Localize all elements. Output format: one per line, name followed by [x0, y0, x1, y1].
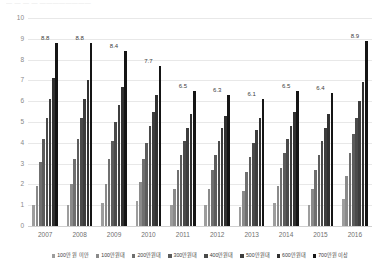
y-axis-tick-label: 0	[20, 223, 24, 230]
bar	[152, 112, 155, 226]
bar-value-label: 8.4	[110, 43, 118, 49]
legend-item-label: 200만원대	[137, 253, 161, 258]
bar	[136, 201, 139, 226]
legend-swatch-icon	[52, 254, 56, 258]
bar	[124, 51, 127, 226]
bar	[290, 126, 293, 226]
bar	[245, 172, 248, 226]
bar	[355, 118, 358, 226]
x-axis-tick-label: 2010	[131, 228, 165, 242]
bar	[324, 128, 327, 226]
bar	[39, 162, 42, 226]
x-axis-tick-label: 2016	[338, 228, 372, 242]
bar	[362, 82, 365, 226]
bar-value-label: 8.9	[351, 33, 359, 39]
bar	[105, 184, 108, 226]
bar	[311, 189, 314, 226]
bar	[73, 159, 76, 226]
legend-item-label: 300만원대	[174, 253, 198, 258]
x-axis-tick-label: 2013	[234, 228, 268, 242]
bar	[108, 159, 111, 226]
bar	[149, 126, 152, 226]
bar	[186, 128, 189, 226]
x-axis-tick-label: 2011	[166, 228, 200, 242]
bar	[331, 93, 334, 226]
bar	[365, 41, 368, 226]
bar	[32, 205, 35, 226]
bar	[52, 78, 55, 226]
bar	[145, 143, 148, 226]
legend-item[interactable]: 300만원대	[168, 253, 197, 258]
bar-value-label: 6.5	[282, 83, 290, 89]
legend-item[interactable]: 700만원 이상	[313, 253, 349, 258]
legend-swatch-icon	[204, 254, 208, 258]
bar-group: 6.5	[269, 18, 303, 226]
bar-group: 6.4	[303, 18, 337, 226]
bar-value-label: 6.4	[316, 85, 324, 91]
bar	[208, 189, 211, 226]
bar	[283, 153, 286, 226]
bar	[42, 139, 45, 226]
bar	[121, 87, 124, 226]
bar	[183, 141, 186, 226]
legend-item-label: 500만원대	[246, 253, 270, 258]
legend-swatch-icon	[168, 254, 172, 258]
x-axis-tick-label: 2007	[28, 228, 62, 242]
bar	[255, 130, 258, 226]
bar-value-label: 7.7	[144, 58, 152, 64]
bar	[280, 168, 283, 226]
bar	[36, 186, 39, 226]
legend-item[interactable]: 500만원대	[240, 253, 269, 258]
bar	[342, 199, 345, 226]
bar	[345, 176, 348, 226]
legend-item[interactable]: 600만원대	[277, 253, 306, 258]
bar	[90, 43, 93, 226]
legend-item-label: 400만원대	[210, 253, 234, 258]
legend-item[interactable]: 100만 원 미만	[52, 253, 89, 258]
y-axis-tick-label: 1	[20, 202, 24, 209]
bar-group: 6.3	[200, 18, 234, 226]
legend-item[interactable]: 400만원대	[204, 253, 233, 258]
bar	[159, 66, 162, 226]
x-axis-tick-label: 2008	[62, 228, 96, 242]
y-axis-tick-label: 5	[20, 119, 24, 126]
chart-container: — — — — ———————— 012345678910 8.88.88.47…	[0, 0, 374, 273]
clipped-header-strip: — — — — ————————	[0, 0, 374, 9]
legend-swatch-icon	[277, 254, 281, 258]
bar	[349, 153, 352, 226]
bar	[193, 91, 196, 226]
bar	[170, 205, 173, 226]
bar-value-label: 6.1	[247, 91, 255, 97]
bar	[327, 114, 330, 226]
bar	[224, 116, 227, 226]
bar-value-label: 6.3	[213, 87, 221, 93]
legend-item-label: 100만원대	[101, 253, 125, 258]
bar	[252, 143, 255, 226]
bar-group: 7.7	[131, 18, 165, 226]
bar	[190, 114, 193, 226]
bar	[321, 141, 324, 226]
bar	[49, 99, 52, 226]
y-axis-tick-label: 4	[20, 140, 24, 147]
bar-group: 6.1	[234, 18, 268, 226]
bar	[87, 80, 90, 226]
legend-swatch-icon	[132, 254, 136, 258]
bar	[204, 205, 207, 226]
x-axis-tick-label: 2009	[97, 228, 131, 242]
bar	[286, 139, 289, 226]
y-axis-tick-label: 10	[17, 15, 24, 22]
bar	[358, 101, 361, 226]
legend-item-label: 700만원 이상	[318, 253, 348, 258]
bar-value-label: 8.8	[41, 35, 49, 41]
bar-value-label: 8.8	[75, 35, 83, 41]
bar	[262, 99, 265, 226]
legend-item[interactable]: 200만원대	[132, 253, 161, 258]
bar	[277, 186, 280, 226]
bar	[142, 159, 145, 226]
bar-groups: 8.88.88.47.76.56.36.16.56.48.9	[28, 18, 372, 226]
legend-swatch-icon	[240, 254, 244, 258]
legend-item-label: 600만원대	[282, 253, 306, 258]
legend-item[interactable]: 100만원대	[96, 253, 125, 258]
bar	[101, 203, 104, 226]
bar-group: 6.5	[166, 18, 200, 226]
